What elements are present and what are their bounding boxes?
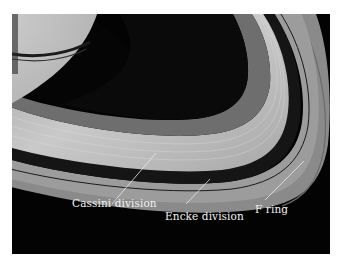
encke-division-label: Encke division xyxy=(165,210,244,222)
saturn-rings-photo: Cassini division Encke division F ring xyxy=(12,14,330,254)
cassini-division-label: Cassini division xyxy=(72,197,157,209)
f-ring-label: F ring xyxy=(255,203,288,215)
